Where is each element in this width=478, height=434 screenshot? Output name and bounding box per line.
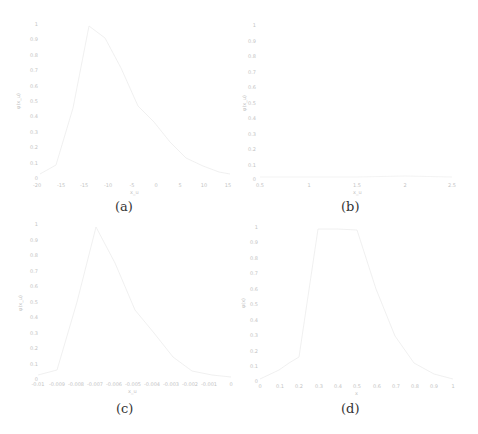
caption-c: (c) (116, 401, 133, 416)
y-tick: 0.4 (22, 114, 38, 119)
y-tick: 0.4 (242, 318, 258, 323)
x-tick: 1 (441, 384, 465, 389)
x-axis-label: x (355, 390, 358, 396)
x-tick: 10 (192, 183, 216, 188)
y-tick: 1 (242, 225, 258, 230)
caption-b: (b) (341, 199, 359, 214)
caption-a: (a) (115, 199, 133, 214)
y-tick: 0.2 (22, 346, 38, 351)
y-tick: 0.1 (22, 362, 38, 367)
y-tick: 0.8 (22, 53, 38, 58)
y-tick: 0.2 (240, 147, 256, 152)
y-tick: 0.3 (240, 132, 256, 137)
x-tick: 1.5 (345, 183, 369, 188)
y-tick: 0.4 (240, 116, 256, 121)
y-tick: 0.8 (240, 54, 256, 59)
panel-c: φ(x_u) 1 0.9 0.8 0.7 0.6 0.5 0.4 0.3 0.2… (0, 215, 240, 434)
x-tick: 2 (393, 183, 417, 188)
y-tick: 0.3 (22, 130, 38, 135)
y-tick: 0.9 (242, 240, 258, 245)
y-tick: 0.5 (242, 302, 258, 307)
x-tick: 0.5 (248, 183, 272, 188)
x-axis-label: x_u (130, 189, 139, 195)
y-tick: 1 (22, 22, 38, 27)
y-tick: 0.7 (240, 70, 256, 75)
y-tick: 0.7 (22, 68, 38, 73)
curve-d (260, 227, 453, 382)
y-tick: 0.5 (22, 99, 38, 104)
x-tick: -10 (96, 183, 120, 188)
y-tick: 0.6 (242, 287, 258, 292)
y-axis-label: φ(x_u) (15, 93, 21, 109)
y-tick: 0.3 (242, 333, 258, 338)
y-tick: 0.9 (22, 37, 38, 42)
y-tick: 1 (240, 23, 256, 28)
x-tick: -5 (120, 183, 144, 188)
y-tick: 0.9 (22, 238, 38, 243)
x-tick: 5 (168, 183, 192, 188)
y-tick: 0.7 (242, 271, 258, 276)
y-tick: 0.5 (22, 300, 38, 305)
x-axis-label: x_u (128, 388, 137, 394)
panel-a: φ(x_u) 1 0.9 0.8 0.7 0.6 0.5 0.4 0.3 0.2… (0, 0, 240, 215)
y-tick: 1 (22, 222, 38, 227)
curve-a (40, 22, 230, 180)
y-tick: 0.5 (240, 101, 256, 106)
y-tick: 0.8 (242, 256, 258, 261)
y-tick: 0.2 (22, 145, 38, 150)
x-tick: -15 (49, 183, 73, 188)
x-tick: -0.001 (197, 382, 221, 387)
x-tick: 1 (297, 183, 321, 188)
y-tick: 0 (22, 176, 38, 181)
y-tick: 0.7 (22, 269, 38, 274)
curve-b (260, 22, 452, 180)
y-tick: 0.6 (22, 84, 38, 89)
x-tick: -15 (72, 183, 96, 188)
curve-c (38, 224, 231, 380)
y-tick: 0.9 (240, 39, 256, 44)
y-tick: 0.3 (22, 331, 38, 336)
y-tick: 0 (240, 177, 256, 182)
y-tick: 0.2 (242, 349, 258, 354)
y-tick: 0.1 (22, 161, 38, 166)
y-tick: 0.1 (240, 163, 256, 168)
x-axis-label: x_u (353, 189, 362, 195)
panel-b: φ(x_u) 1 0.9 0.8 0.7 0.6 0.5 0.4 0.3 0.2… (240, 0, 478, 215)
x-tick: -20 (25, 183, 49, 188)
panel-d: φ(x) 1 0.9 0.8 0.7 0.6 0.5 0.4 0.3 0.2 0… (240, 215, 478, 434)
x-tick: 0 (144, 183, 168, 188)
y-tick: 0.6 (240, 85, 256, 90)
x-tick: 2.5 (440, 183, 464, 188)
x-tick: 15 (216, 183, 240, 188)
y-tick: 0.6 (22, 284, 38, 289)
y-tick: 0.1 (242, 364, 258, 369)
y-tick: 0.4 (22, 315, 38, 320)
y-tick: 0.8 (22, 253, 38, 258)
caption-d: (d) (341, 401, 359, 416)
